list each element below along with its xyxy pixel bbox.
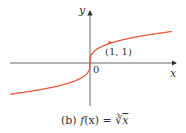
y-axis-label: y	[79, 4, 85, 17]
caption-variable: x	[122, 114, 128, 127]
point-annotation: (1, 1)	[105, 46, 132, 57]
curve-direction-marker	[108, 41, 113, 45]
caption-prefix: (b)	[61, 114, 80, 127]
figure-caption: (b) f(x) = ∛x	[61, 114, 128, 127]
x-axis-label: x	[170, 67, 176, 80]
caption-argument: (x) =	[84, 114, 115, 127]
origin-label: 0	[93, 64, 99, 75]
